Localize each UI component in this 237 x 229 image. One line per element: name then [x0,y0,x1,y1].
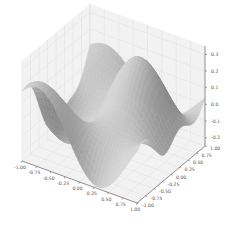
svg-text:0.00: 0.00 [72,186,82,191]
svg-text:-1.00: -1.00 [14,165,26,170]
svg-text:0.2: 0.2 [211,69,218,74]
svg-text:-1.00: -1.00 [142,203,154,208]
svg-text:0.50: 0.50 [193,160,203,165]
svg-text:1.00: 1.00 [210,146,220,151]
surface-plot-figure: -1.00-0.75-0.50-0.250.000.250.500.751.00… [0,0,237,229]
svg-text:0.50: 0.50 [101,197,111,202]
svg-text:0.75: 0.75 [116,202,126,207]
surface-plot: -1.00-0.75-0.50-0.250.000.250.500.751.00… [0,0,237,229]
svg-text:0.1: 0.1 [211,85,218,90]
svg-text:-0.75: -0.75 [151,196,163,201]
svg-text:0.00: 0.00 [176,175,186,180]
svg-text:1.00: 1.00 [130,207,140,212]
svg-text:0.25: 0.25 [87,191,97,196]
z-axis-ticks: -0.2-0.10.00.10.20.3 [205,52,220,140]
svg-text:0.25: 0.25 [185,167,195,172]
svg-text:-0.50: -0.50 [43,176,55,181]
svg-text:-0.75: -0.75 [28,170,40,175]
svg-text:-0.2: -0.2 [211,135,220,140]
svg-text:0.75: 0.75 [202,153,212,158]
svg-text:0.0: 0.0 [211,102,218,107]
svg-text:0.3: 0.3 [211,52,218,57]
svg-text:-0.25: -0.25 [168,182,180,187]
svg-text:-0.50: -0.50 [159,189,171,194]
svg-text:-0.1: -0.1 [211,119,220,124]
svg-text:-0.25: -0.25 [57,181,69,186]
